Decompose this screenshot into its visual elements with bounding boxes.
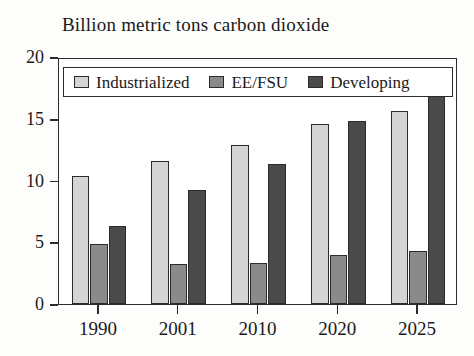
chart-legend: IndustrializedEE/FSUDeveloping xyxy=(63,67,453,97)
bar-ee-fsu-2020 xyxy=(330,255,348,304)
x-axis-tick-label: 2001 xyxy=(138,318,218,340)
y-axis-tick-label: 10 xyxy=(26,171,44,192)
x-axis-tick-mark xyxy=(97,305,99,314)
legend-label: Developing xyxy=(330,74,409,91)
bar-ee-fsu-2010 xyxy=(250,263,268,304)
y-axis-tick-mark xyxy=(50,181,58,183)
x-axis: 19902001201020202025 xyxy=(58,305,457,355)
y-axis-tick-mark xyxy=(50,304,58,306)
y-axis-tick-mark xyxy=(50,57,58,59)
x-axis-tick-mark xyxy=(257,305,259,314)
x-axis-tick-label: 1990 xyxy=(58,318,138,340)
chart-title: Billion metric tons carbon dioxide xyxy=(62,14,329,36)
x-axis-tick-mark xyxy=(337,305,339,314)
bar-developing-2025 xyxy=(428,94,446,304)
y-axis-tick-label: 0 xyxy=(35,294,44,315)
legend-entry: Developing xyxy=(308,74,409,91)
y-axis-tick-label: 5 xyxy=(35,232,44,253)
y-axis-tick-label: 20 xyxy=(26,47,44,68)
bar-developing-2020 xyxy=(348,121,366,304)
legend-label: Industrialized xyxy=(96,74,189,91)
plot-area: IndustrializedEE/FSUDeveloping xyxy=(58,58,457,305)
y-axis-tick-label: 15 xyxy=(26,109,44,130)
y-axis: 05101520 xyxy=(0,0,58,356)
bar-industrialized-2001 xyxy=(151,161,169,304)
x-axis-tick-mark xyxy=(177,305,179,314)
x-axis-tick-label: 2010 xyxy=(218,318,298,340)
bar-developing-2010 xyxy=(268,164,286,304)
bar-industrialized-2010 xyxy=(231,145,249,304)
bar-developing-2001 xyxy=(188,190,206,304)
x-axis-tick-label: 2025 xyxy=(377,318,457,340)
bar-industrialized-1990 xyxy=(72,176,90,304)
bar-ee-fsu-2001 xyxy=(170,264,188,304)
chart-figure: Billion metric tons carbon dioxide 05101… xyxy=(0,0,474,356)
bar-industrialized-2025 xyxy=(391,111,409,304)
legend-swatch-icon xyxy=(209,76,224,88)
legend-swatch-icon xyxy=(74,76,89,88)
legend-entry: Industrialized xyxy=(74,74,189,91)
y-axis-tick-mark xyxy=(50,119,58,121)
legend-swatch-icon xyxy=(308,76,323,88)
legend-entry: EE/FSU xyxy=(209,74,288,91)
y-axis-tick-mark xyxy=(50,242,58,244)
bar-developing-1990 xyxy=(109,226,127,304)
bar-ee-fsu-2025 xyxy=(409,251,427,304)
legend-label: EE/FSU xyxy=(231,74,288,91)
bar-industrialized-2020 xyxy=(311,124,329,304)
bar-ee-fsu-1990 xyxy=(90,244,108,305)
x-axis-tick-mark xyxy=(416,305,418,314)
x-axis-tick-label: 2020 xyxy=(297,318,377,340)
